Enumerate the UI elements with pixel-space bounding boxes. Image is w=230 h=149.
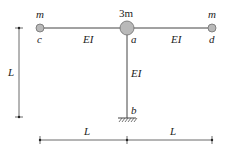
mass-label-a: 3m	[119, 7, 134, 19]
node-label-b: b	[131, 104, 137, 116]
structural-frame-diagram: m 3m m c a d b EI EI EI L L L	[0, 0, 230, 149]
node-label-d: d	[209, 33, 215, 45]
node-label-c: c	[37, 33, 42, 45]
mass-d-icon	[208, 24, 216, 32]
mass-label-d: m	[208, 8, 216, 20]
vertical-dimension	[15, 27, 23, 118]
node-label-a: a	[131, 33, 137, 45]
bottom-dimension	[39, 136, 213, 144]
mass-label-c: m	[36, 8, 44, 20]
dimension-label-bottom-right: L	[169, 125, 176, 137]
stiffness-label-beam-left: EI	[82, 33, 95, 45]
stiffness-label-beam-right: EI	[170, 33, 183, 45]
fixed-support-icon	[118, 118, 137, 122]
dimension-label-bottom-left: L	[83, 125, 90, 137]
stiffness-label-column: EI	[130, 67, 143, 79]
dimension-label-vertical: L	[7, 66, 14, 78]
mass-c-icon	[36, 24, 44, 32]
